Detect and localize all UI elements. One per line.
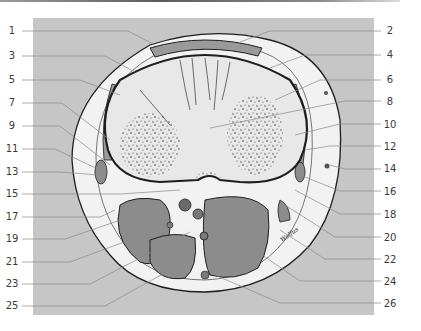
label-22: 22 — [380, 255, 400, 265]
label-25: 25 — [4, 301, 20, 311]
label-26: 26 — [380, 299, 400, 309]
label-4: 4 — [380, 50, 400, 60]
label-10: 10 — [380, 120, 400, 130]
label-19: 19 — [4, 234, 20, 244]
label-7: 7 — [4, 98, 20, 108]
label-3: 3 — [4, 51, 20, 61]
label-15: 15 — [4, 189, 20, 199]
label-18: 18 — [380, 210, 400, 220]
label-9: 9 — [4, 121, 20, 131]
label-17: 17 — [4, 212, 20, 222]
label-2: 2 — [380, 26, 400, 36]
popliteal-artery — [179, 199, 191, 211]
label-1: 1 — [4, 26, 20, 36]
label-6: 6 — [380, 75, 400, 85]
label-11: 11 — [4, 144, 20, 154]
label-12: 12 — [380, 142, 400, 152]
label-21: 21 — [4, 257, 20, 267]
label-23: 23 — [4, 279, 20, 289]
label-5: 5 — [4, 75, 20, 85]
tibial-nerve — [200, 232, 208, 240]
label-20: 20 — [380, 233, 400, 243]
cross-section-illustration: Wolfus — [0, 0, 421, 331]
label-13: 13 — [4, 167, 20, 177]
side-muscle-left — [95, 160, 107, 184]
label-16: 16 — [380, 187, 400, 197]
skin-vessel-6 — [324, 91, 328, 95]
popliteal-vein — [193, 209, 203, 219]
label-24: 24 — [380, 277, 400, 287]
label-8: 8 — [380, 97, 400, 107]
small-saphenous-vein — [201, 271, 209, 279]
muscle-medial-head — [203, 197, 269, 278]
great-saphenous-vein — [325, 164, 330, 169]
label-14: 14 — [380, 164, 400, 174]
